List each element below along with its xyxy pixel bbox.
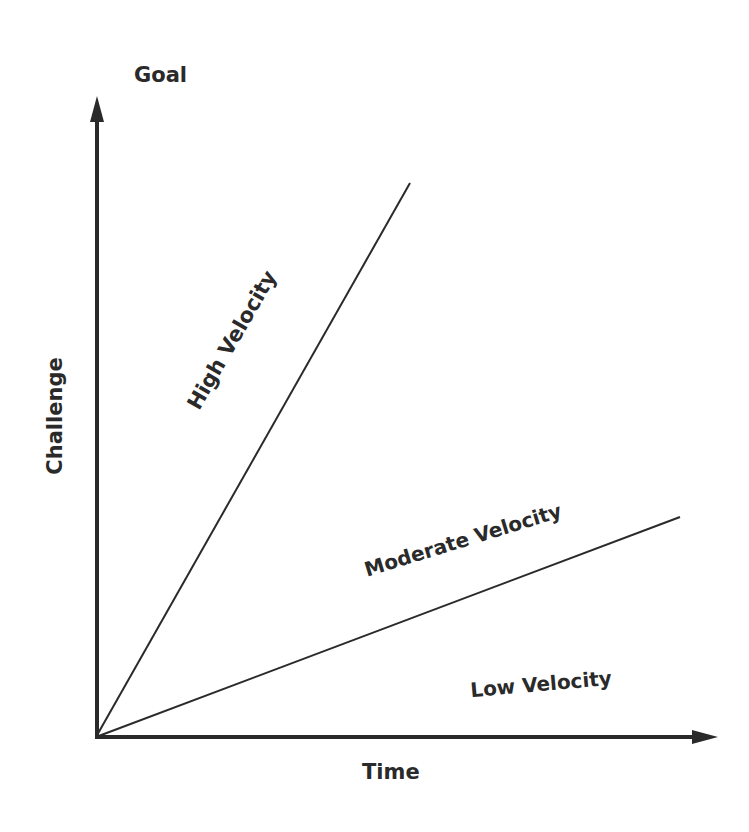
diagram-canvas [0,0,749,832]
high-velocity-line [96,183,410,737]
x-axis-arrow-icon [692,730,718,744]
goal-label: Goal [134,63,187,87]
x-axis [95,730,718,744]
y-axis-arrow-icon [90,96,104,122]
y-axis [90,96,104,738]
x-axis-label: Time [362,760,420,784]
y-axis-label: Challenge [43,357,67,474]
